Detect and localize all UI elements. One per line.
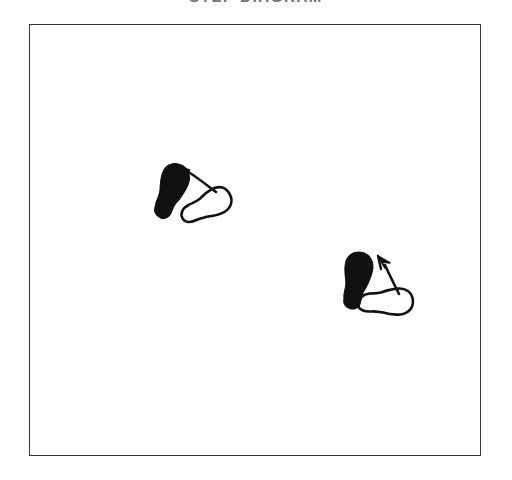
step-diagram-figure: STEP DIAGRAM	[0, 0, 512, 480]
figure-title-clip: STEP DIAGRAM	[0, 0, 512, 5]
page-title: STEP DIAGRAM	[0, 0, 512, 5]
drawing-frame	[29, 24, 481, 456]
